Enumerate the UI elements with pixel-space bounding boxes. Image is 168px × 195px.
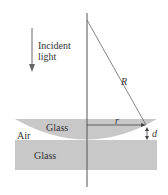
air-label: Air: [17, 130, 30, 141]
d-arrowhead-down: [145, 136, 149, 140]
r-label: r: [115, 115, 119, 126]
glass-lens: [15, 119, 157, 140]
incident-label: Incident light: [38, 40, 71, 62]
d-label: d: [152, 128, 157, 139]
radius-line: [87, 20, 146, 125]
lens-label: Glass: [46, 122, 68, 133]
d-arrowhead-up: [145, 127, 149, 131]
radius-label: R: [121, 76, 127, 87]
incident-label-line2: light: [38, 51, 71, 62]
incident-label-line1: Incident: [38, 40, 71, 51]
plate-label: Glass: [34, 150, 56, 161]
incident-arrow-icon: [29, 64, 35, 72]
newtons-rings-diagram: [0, 0, 168, 195]
